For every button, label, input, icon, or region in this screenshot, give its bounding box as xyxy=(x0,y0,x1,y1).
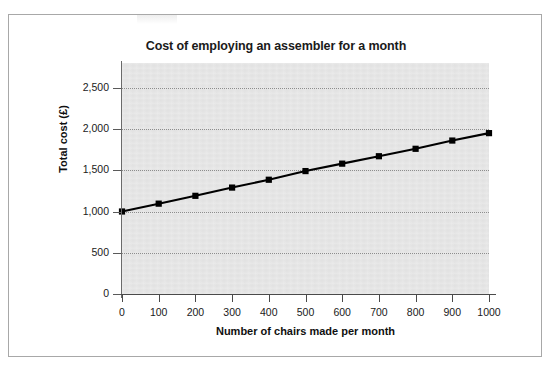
x-tick-mark-500 xyxy=(306,294,307,302)
x-tick-label: 100 xyxy=(139,306,179,318)
x-axis-title: Number of chairs made per month xyxy=(122,325,489,337)
y-tick-mark-1000 xyxy=(113,212,121,213)
data-point-marker xyxy=(449,137,455,143)
y-tick-label: 500 xyxy=(47,246,109,258)
x-tick-label: 0 xyxy=(102,306,142,318)
y-axis-title: Total cost (£) xyxy=(57,79,69,199)
x-tick-label: 800 xyxy=(396,306,436,318)
x-tick-label: 1000 xyxy=(469,306,509,318)
x-tick-mark-400 xyxy=(269,294,270,302)
y-tick-label: 0 xyxy=(47,287,109,299)
data-point-marker xyxy=(339,161,345,167)
x-tick-label: 300 xyxy=(212,306,252,318)
y-tick-mark-1500 xyxy=(113,170,121,171)
x-tick-mark-0 xyxy=(122,294,123,302)
data-point-marker xyxy=(192,193,198,199)
chart-title: Cost of employing an assembler for a mon… xyxy=(9,39,543,53)
x-tick-label: 500 xyxy=(286,306,326,318)
data-point-marker xyxy=(302,168,308,174)
y-tick-mark-500 xyxy=(113,253,121,254)
data-point-marker xyxy=(229,184,235,190)
x-tick-mark-1000 xyxy=(489,294,490,302)
figure-frame: Cost of employing an assembler for a mon… xyxy=(8,14,542,357)
x-tick-label: 400 xyxy=(249,306,289,318)
data-point-marker xyxy=(266,177,272,183)
data-point-marker xyxy=(156,201,162,207)
x-tick-mark-900 xyxy=(452,294,453,302)
x-tick-label: 600 xyxy=(322,306,362,318)
x-tick-mark-200 xyxy=(195,294,196,302)
x-tick-label: 200 xyxy=(175,306,215,318)
y-axis-spine xyxy=(121,61,122,298)
plot-area xyxy=(122,63,489,294)
data-point-marker xyxy=(376,153,382,159)
x-tick-label: 700 xyxy=(359,306,399,318)
y-tick-mark-2000 xyxy=(113,129,121,130)
scan-artifact xyxy=(137,15,177,24)
x-tick-mark-800 xyxy=(416,294,417,302)
data-point-marker xyxy=(486,130,492,136)
y-tick-mark-0 xyxy=(113,294,121,295)
y-tick-mark-2500 xyxy=(113,88,121,89)
x-tick-label: 900 xyxy=(432,306,472,318)
series-markers xyxy=(119,130,492,215)
series-line-chart xyxy=(122,63,489,294)
y-tick-label: 1,000 xyxy=(47,205,109,217)
x-tick-mark-300 xyxy=(232,294,233,302)
x-tick-mark-700 xyxy=(379,294,380,302)
data-point-marker xyxy=(413,146,419,152)
x-tick-mark-100 xyxy=(159,294,160,302)
x-tick-mark-600 xyxy=(342,294,343,302)
